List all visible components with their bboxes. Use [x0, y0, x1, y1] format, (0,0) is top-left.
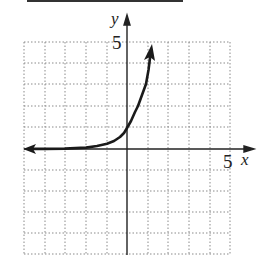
x-axis-label: x — [240, 150, 249, 169]
graph-canvas: y 5 5 x — [0, 0, 269, 264]
y-axis-label: y — [109, 9, 119, 28]
y-tick-5: 5 — [112, 32, 122, 53]
axes — [24, 15, 254, 255]
exponential-curve — [32, 58, 150, 149]
y-axis-arrow-icon — [124, 15, 130, 25]
x-tick-5: 5 — [223, 151, 233, 172]
